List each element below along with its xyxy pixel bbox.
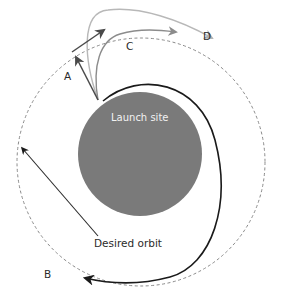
trajectory-a-ascent [76,57,98,100]
label-c: C [126,40,133,52]
label-a: A [64,70,72,82]
label-d: D [203,30,211,42]
orbit-diagram: Launch site Desired orbit A B C D [0,0,282,299]
trajectory-d-path [87,9,212,100]
desired-orbit-label: Desired orbit [94,237,162,249]
launch-site-label: Launch site [111,112,168,123]
launch-site-planet [78,92,202,216]
label-b: B [44,268,51,280]
